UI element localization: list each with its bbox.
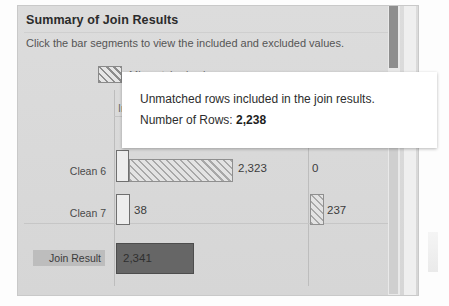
tooltip-line-2: Number of Rows: 2,238 [140, 113, 266, 127]
bar-value-clean-6-mismatched: 2,323 [238, 162, 267, 174]
dialog-subtitle: Click the bar segments to view the inclu… [26, 37, 344, 49]
bar-value-join-result: 2,341 [123, 252, 152, 264]
join-summary-dialog: Summary of Join Results Click the bar se… [18, 6, 418, 295]
header-divider [24, 32, 394, 33]
dialog-title: Summary of Join Results [26, 13, 178, 27]
scrollbar-thumb[interactable] [389, 6, 398, 68]
bar-value-clean-6-excluded: 0 [312, 162, 318, 174]
tooltip-row-count-value: 2,238 [236, 113, 266, 127]
bar-clean-6-included[interactable] [116, 150, 129, 182]
axis-line-middle [24, 223, 396, 224]
panel-right-edge [404, 6, 416, 295]
scrollbar-track-lower[interactable] [389, 134, 398, 294]
bar-clean-7-excluded[interactable] [310, 194, 324, 225]
tooltip-popup: Unmatched rows included in the join resu… [122, 72, 437, 148]
legend-swatch-mismatched-icon [98, 66, 122, 83]
bar-clean-7-included[interactable] [116, 194, 130, 225]
gridline-left [114, 90, 115, 286]
bar-clean-6-mismatched[interactable] [129, 159, 233, 182]
row-label-join-result[interactable]: Join Result [33, 250, 105, 266]
tooltip-row-count-label: Number of Rows: [140, 113, 236, 127]
bar-value-clean-7-included: 38 [134, 204, 147, 216]
row-label-clean-7[interactable]: Clean 7 [44, 207, 106, 219]
tooltip-line-1: Unmatched rows included in the join resu… [140, 92, 375, 106]
bar-value-clean-7-excluded: 237 [327, 204, 346, 216]
row-label-clean-6[interactable]: Clean 6 [44, 165, 106, 177]
screenshot-root: Summary of Join Results Click the bar se… [0, 0, 449, 306]
vertical-scrollbar[interactable] [388, 6, 400, 295]
background-artifact [428, 232, 438, 272]
